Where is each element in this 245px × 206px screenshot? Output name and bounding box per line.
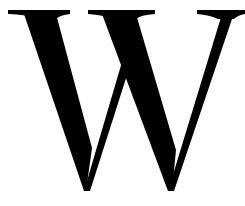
wikipedia-w-logo: W xyxy=(0,0,245,206)
wikipedia-w-icon: W xyxy=(0,0,245,206)
